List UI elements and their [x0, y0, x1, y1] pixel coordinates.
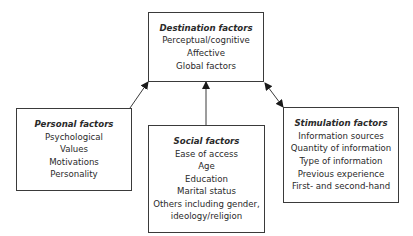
social-item: Ease of access	[175, 148, 238, 161]
stimulation-item: Information sources	[298, 130, 384, 143]
social-factors-title: Social factors	[174, 135, 240, 148]
destination-factors-title: Destination factors	[159, 22, 252, 35]
stimulation-factors-title: Stimulation factors	[294, 117, 387, 130]
social-item: ideology/religion	[171, 210, 242, 223]
social-item: Education	[185, 173, 228, 186]
personal-item: Personality	[50, 168, 97, 181]
stimulation-item: Previous experience	[298, 168, 385, 181]
personal-item: Values	[60, 143, 88, 156]
social-item: Others including gender,	[153, 198, 260, 211]
personal-factors-box: Personal factors Psychological Values Mo…	[16, 108, 132, 191]
social-item: Marital status	[177, 185, 236, 198]
stimulation-item: First- and second-hand	[292, 180, 390, 193]
personal-item: Motivations	[49, 156, 99, 169]
stimulation-item: Type of information	[299, 155, 382, 168]
arrow-stimulation-destination-bidirectional	[265, 83, 283, 107]
destination-factors-box: Destination factors Perceptual/cognitive…	[148, 12, 264, 82]
stimulation-item: Quantity of information	[291, 142, 391, 155]
destination-item: Perceptual/cognitive	[162, 34, 250, 47]
stimulation-factors-box: Stimulation factors Information sources …	[283, 107, 399, 203]
social-item: Age	[198, 160, 215, 173]
personal-item: Psychological	[45, 131, 103, 144]
social-factors-box: Social factors Ease of access Age Educat…	[148, 125, 265, 233]
destination-item: Global factors	[176, 60, 236, 73]
arrow-personal-to-destination	[130, 82, 148, 108]
destination-item: Affective	[187, 47, 225, 60]
personal-factors-title: Personal factors	[34, 118, 113, 131]
